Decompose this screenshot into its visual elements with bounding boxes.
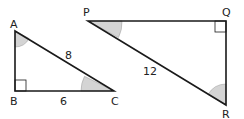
right-angle-b-marker [15,80,26,91]
right-angle-q-marker [215,21,226,32]
vertex-b-label: B [10,95,18,108]
side-bc-length: 6 [60,95,67,108]
vertex-a-label: A [10,18,18,31]
side-pr-length: 12 [143,65,157,78]
vertex-r-label: R [222,108,230,119]
triangle-pqr: P Q R 12 [83,6,231,119]
angle-r-marker [208,84,226,105]
vertex-q-label: Q [222,6,231,19]
vertex-p-label: P [83,6,90,19]
triangle-abc: A B C 8 6 [10,18,119,108]
side-ac-length: 8 [65,49,72,62]
triangle-pqr-outline [88,21,226,105]
similar-triangles-diagram: A B C 8 6 P Q R 12 [0,0,244,119]
vertex-c-label: C [111,95,119,108]
